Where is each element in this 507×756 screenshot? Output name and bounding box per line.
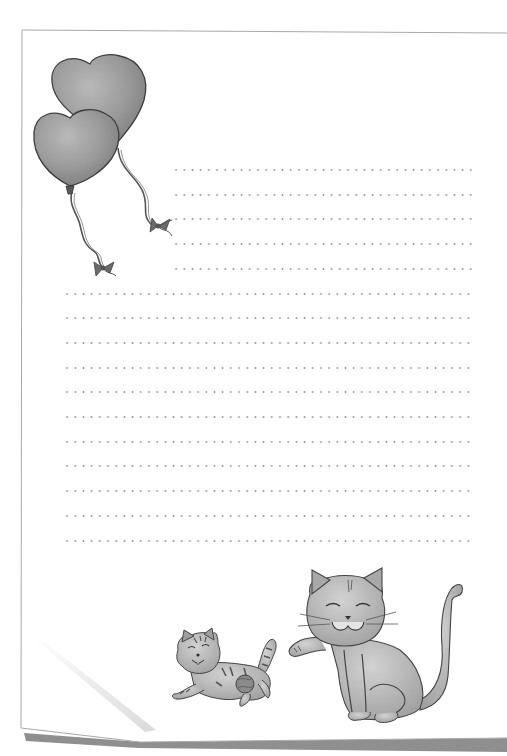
- writing-line: [63, 515, 472, 517]
- writing-line: [63, 367, 472, 369]
- paper-background: [0, 0, 507, 756]
- stationery-sheet: [0, 0, 507, 756]
- writing-line-short: [172, 218, 472, 220]
- writing-line: [63, 391, 472, 393]
- writing-line: [63, 342, 472, 344]
- writing-line: [63, 540, 472, 542]
- writing-line: [63, 441, 472, 443]
- writing-line-short: [172, 194, 472, 196]
- writing-line-short: [172, 243, 472, 245]
- writing-line: [63, 317, 472, 319]
- writing-line: [63, 416, 472, 418]
- yarn-ball: [236, 675, 254, 693]
- writing-line: [63, 293, 472, 295]
- writing-line: [63, 465, 472, 467]
- writing-line-short: [172, 169, 472, 171]
- writing-line: [63, 490, 472, 492]
- writing-line-short: [172, 268, 472, 270]
